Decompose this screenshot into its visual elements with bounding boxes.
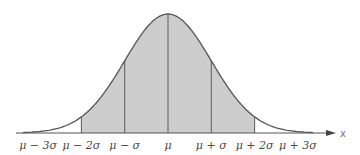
tick-label: μ + σ xyxy=(196,139,227,152)
axis-arrow-icon xyxy=(326,130,336,136)
normal-distribution-diagram: x μ − 3σμ − 2σμ − σμμ + σμ + 2σμ + 3σ xyxy=(0,0,360,155)
axis-variable-label: x xyxy=(340,128,346,139)
tick-label: μ xyxy=(164,139,171,152)
tick-label: μ − 3σ xyxy=(19,139,57,152)
tick-label: μ + 3σ xyxy=(279,139,317,152)
tick-labels: μ − 3σμ − 2σμ − σμμ + σμ + 2σμ + 3σ xyxy=(19,139,317,152)
tick-label: μ − σ xyxy=(109,139,140,152)
tick-label: μ + 2σ xyxy=(236,139,274,152)
tick-label: μ − 2σ xyxy=(62,139,100,152)
